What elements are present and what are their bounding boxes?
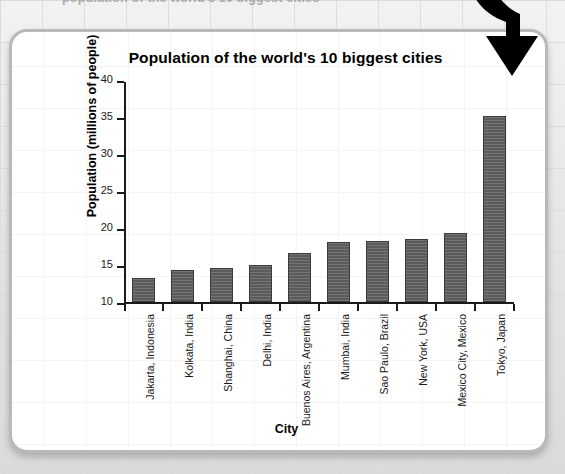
x-axis-tick-label: Mumbai, India [339,314,351,380]
x-axis-tick [474,304,476,311]
y-axis-tick-label: 10 [101,295,113,307]
y-axis-tick: 10 [117,303,124,305]
x-axis-tick [201,304,203,311]
y-axis-title: Population (millions of people) [85,29,105,244]
bar [483,116,506,302]
x-axis-tick [435,304,437,311]
y-axis-tick: 35 [117,118,124,120]
x-axis-tick-label: Mexico City, Mexico [456,314,468,407]
x-axis-tick [240,304,242,311]
x-axis-tick [124,304,126,311]
y-axis-tick: 40 [117,81,124,83]
x-axis-tick-label: Shanghai, China [222,314,234,392]
axes: 10152025303540 Jakarta, IndonesiaKolkata… [124,82,514,304]
plot-area: Population (millions of people) 10152025… [12,32,548,453]
y-axis-tick: 20 [117,229,124,231]
x-axis-tick [279,304,281,311]
x-axis-tick [513,304,515,311]
y-axis-tick-label: 35 [101,110,113,122]
bar [327,242,350,302]
x-axis-title: City [12,422,548,436]
y-axis-tick: 15 [117,266,124,268]
bar [210,268,233,302]
bar [288,253,311,302]
x-axis-tick [318,304,320,311]
y-axis-tick: 25 [117,192,124,194]
y-axis-tick-label: 20 [101,221,113,233]
x-axis-tick-label: Delhi, India [261,314,273,367]
bar [171,270,194,302]
y-axis-tick-label: 40 [101,73,113,85]
x-axis-tick-label: Tokyo, Japan [495,314,507,376]
x-axis-tick-label: Kolkata, India [183,314,195,378]
x-axis-tick-label: Buenos Aires, Argentina [300,314,312,426]
x-axis-tick [396,304,398,311]
x-axis-tick-label: Jakarta, Indonesia [144,314,156,400]
x-axis-tick-label: Sao Paulo, Brazil [378,314,390,395]
bar [444,233,467,302]
bar [405,239,428,302]
chart-card: Population of the world's 10 biggest cit… [9,29,548,453]
y-axis-tick-label: 30 [101,147,113,159]
x-axis-tick-label: New York, USA [417,314,429,386]
bar [249,265,272,302]
y-axis-tick-label: 25 [101,184,113,196]
x-axis-tick [162,304,164,311]
clipped-header-text: population of the world's 10 biggest cit… [62,0,492,5]
bar [366,241,389,302]
x-axis-tick [357,304,359,311]
y-axis-tick-label: 15 [101,258,113,270]
y-axis-line [124,82,126,304]
bar [132,278,155,302]
y-axis-tick: 30 [117,155,124,157]
